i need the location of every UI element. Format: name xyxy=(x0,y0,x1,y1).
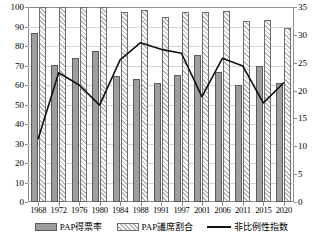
y-tick-label-right: 10 xyxy=(298,142,322,151)
x-tick-label: 1968 xyxy=(28,205,48,215)
y-tick-mark-right xyxy=(294,146,297,147)
y-tick-label-left: 100 xyxy=(0,3,24,12)
y-tick-mark-left xyxy=(25,66,28,67)
y-tick-mark-right xyxy=(294,63,297,64)
y-tick-mark-left xyxy=(25,85,28,86)
line-series-overlay xyxy=(28,7,294,202)
y-tick-label-left: 70 xyxy=(0,61,24,70)
legend-item-seat-share: PAP議席割合 xyxy=(117,222,194,232)
y-tick-mark-right xyxy=(294,202,297,203)
x-tick-label: 1972 xyxy=(48,205,68,215)
y-tick-mark-left xyxy=(25,27,28,28)
legend-label-seat-share: PAP議席割合 xyxy=(142,222,194,232)
legend-label-vote-share: PAP得票率 xyxy=(60,222,103,232)
y-tick-mark-right xyxy=(294,174,297,175)
x-tick-label: 1976 xyxy=(69,205,89,215)
y-tick-mark-left xyxy=(25,183,28,184)
x-axis-labels: 1968197219761980198419881991199720012006… xyxy=(28,205,294,215)
y-tick-label-left: 50 xyxy=(0,100,24,109)
y-tick-mark-left xyxy=(25,7,28,8)
y-tick-label-right: 0 xyxy=(298,198,322,207)
x-tick-label: 1984 xyxy=(110,205,130,215)
y-tick-mark-left xyxy=(25,144,28,145)
y-tick-label-left: 40 xyxy=(0,120,24,129)
disproportionality-line xyxy=(38,43,284,139)
y-tick-mark-right xyxy=(294,35,297,36)
line-swatch-icon xyxy=(207,226,231,228)
x-tick-label: 2011 xyxy=(233,205,253,215)
x-tick-label: 2015 xyxy=(253,205,273,215)
y-tick-label-left: 60 xyxy=(0,81,24,90)
y-tick-label-left: 90 xyxy=(0,22,24,31)
y-tick-mark-left xyxy=(25,124,28,125)
solid-gray-swatch-icon xyxy=(35,223,57,231)
y-tick-label-right: 30 xyxy=(298,30,322,39)
x-tick-label: 1997 xyxy=(171,205,191,215)
y-tick-label-left: 10 xyxy=(0,178,24,187)
chart-container: 0102030405060708090100 05101520253035 19… xyxy=(0,0,323,242)
y-tick-mark-left xyxy=(25,46,28,47)
y-tick-label-right: 20 xyxy=(298,86,322,95)
x-tick-label: 2006 xyxy=(212,205,232,215)
y-tick-label-right: 35 xyxy=(298,3,322,12)
legend-item-disproportionality: 非比例性指数 xyxy=(207,222,288,232)
y-tick-mark-left xyxy=(25,105,28,106)
y-tick-mark-left xyxy=(25,202,28,203)
y-tick-mark-left xyxy=(25,163,28,164)
legend-item-vote-share: PAP得票率 xyxy=(35,222,103,232)
hatched-swatch-icon xyxy=(117,223,139,231)
x-tick-label: 2001 xyxy=(192,205,212,215)
chart-legend: PAP得票率 PAP議席割合 非比例性指数 xyxy=(0,222,323,232)
x-tick-label: 1991 xyxy=(151,205,171,215)
y-tick-label-left: 80 xyxy=(0,42,24,51)
plot-area xyxy=(28,7,294,202)
y-tick-label-left: 0 xyxy=(0,198,24,207)
y-tick-label-right: 25 xyxy=(298,58,322,67)
x-tick-label: 2020 xyxy=(274,205,294,215)
y-tick-label-right: 15 xyxy=(298,114,322,123)
y-tick-mark-right xyxy=(294,7,297,8)
y-tick-label-right: 5 xyxy=(298,170,322,179)
y-tick-label-left: 30 xyxy=(0,139,24,148)
legend-label-disproportionality: 非比例性指数 xyxy=(234,222,288,232)
y-tick-mark-right xyxy=(294,91,297,92)
x-tick-label: 1988 xyxy=(130,205,150,215)
y-tick-label-left: 20 xyxy=(0,159,24,168)
x-tick-label: 1980 xyxy=(89,205,109,215)
y-tick-mark-right xyxy=(294,118,297,119)
